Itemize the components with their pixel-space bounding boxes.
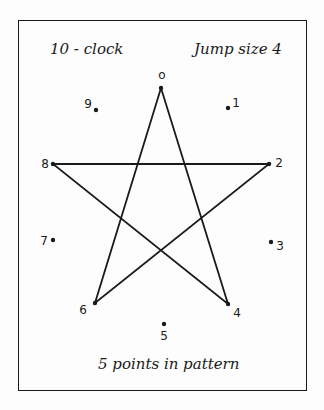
point-label-3: 3 xyxy=(276,239,284,253)
clock-point-9 xyxy=(94,108,98,112)
point-label-8: 8 xyxy=(41,157,49,171)
clock-point-0 xyxy=(159,86,163,90)
clock-point-5 xyxy=(162,322,166,326)
point-label-0: o xyxy=(158,68,165,82)
clock-point-7 xyxy=(51,238,55,242)
point-label-9: 9 xyxy=(84,97,92,111)
clock-point-3 xyxy=(269,240,273,244)
clock-point-4 xyxy=(226,302,230,306)
clock-point-8 xyxy=(51,162,55,166)
star-diagram xyxy=(0,0,324,410)
clock-point-1 xyxy=(226,106,230,110)
point-label-7: 7 xyxy=(40,234,48,248)
star-path xyxy=(53,88,269,304)
point-label-2: 2 xyxy=(275,156,283,170)
clock-point-6 xyxy=(93,301,97,305)
point-label-4: 4 xyxy=(233,306,241,320)
clock-point-2 xyxy=(267,162,271,166)
point-label-6: 6 xyxy=(79,303,87,317)
point-label-1: 1 xyxy=(232,96,240,110)
point-label-5: 5 xyxy=(160,329,168,343)
